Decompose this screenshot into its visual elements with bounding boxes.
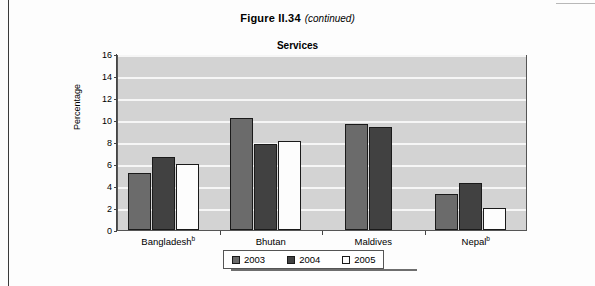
y-axis-tick-label: 8 (92, 139, 112, 148)
figure-continued-note: (continued) (305, 13, 355, 24)
gridline (118, 143, 526, 145)
legend-label: 2004 (299, 254, 320, 265)
y-axis-tick-mark (114, 143, 117, 144)
x-axis-tick-mark (322, 231, 323, 235)
legend-item-2005[interactable]: 2005 (342, 254, 375, 265)
y-axis-tick-mark (114, 55, 117, 56)
y-axis-tick-mark (114, 121, 117, 122)
gridline (118, 55, 526, 57)
y-axis-tick-label: 10 (92, 117, 112, 126)
legend-swatch-icon (342, 256, 350, 264)
x-axis-category-label: Maldives (322, 236, 425, 247)
x-axis-category-label: Bhutan (220, 236, 323, 247)
legend-item-2003[interactable]: 2003 (232, 254, 265, 265)
bar-nepal-2005 (483, 208, 506, 230)
y-axis-tick-label: 6 (92, 161, 112, 170)
figure-number: Figure II.34 (240, 12, 300, 24)
y-axis-tick-mark (114, 187, 117, 188)
bar-bhutan-2005 (278, 141, 301, 230)
x-axis-category-label: Nepalb (425, 236, 528, 247)
y-axis-tick-mark (114, 209, 117, 210)
bar-bangladesh-2003 (128, 173, 151, 230)
bottom-rule (231, 269, 417, 271)
y-axis-tick-mark (114, 231, 117, 232)
bar-nepal-2004 (459, 183, 482, 230)
y-axis-tick-label: 0 (92, 227, 112, 236)
x-axis-tick-mark (425, 231, 426, 235)
bar-nepal-2003 (435, 194, 458, 230)
plot-area (117, 55, 527, 231)
y-axis-tick-label: 4 (92, 183, 112, 192)
y-axis-tick-mark (114, 77, 117, 78)
bar-bangladesh-2004 (152, 157, 175, 230)
legend-label: 2005 (354, 254, 375, 265)
plot-wrapper: 0246810121416 BangladeshbBhutanMaldivesN… (117, 55, 527, 231)
y-axis-title-label: Percentage (72, 62, 82, 152)
chart-legend: 200320042005 (223, 250, 384, 269)
bar-bangladesh-2005 (176, 164, 199, 230)
y-axis-tick-label: 14 (92, 73, 112, 82)
figure-page: Figure II.34(continued) Services Percent… (0, 0, 595, 286)
legend-swatch-icon (232, 256, 240, 264)
gridline (118, 121, 526, 123)
bar-bhutan-2003 (230, 118, 253, 230)
page-top-right-rule (556, 3, 595, 4)
y-axis-title: Percentage (72, 100, 82, 114)
x-axis-category-label: Bangladeshb (117, 236, 220, 247)
y-axis-tick-label: 2 (92, 205, 112, 214)
bar-maldives-2004 (369, 127, 392, 230)
bar-bhutan-2004 (254, 144, 277, 230)
legend-item-2004[interactable]: 2004 (287, 254, 320, 265)
footnote-marker: b (486, 235, 490, 242)
bar-maldives-2003 (345, 124, 368, 230)
footnote-marker: b (192, 235, 196, 242)
figure-title: Figure II.34(continued) (0, 12, 595, 25)
gridline (118, 99, 526, 101)
gridline (118, 77, 526, 79)
x-axis-tick-mark (220, 231, 221, 235)
chart-title: Services (0, 40, 595, 52)
y-axis-tick-label: 16 (92, 51, 112, 60)
y-axis-tick-mark (114, 165, 117, 166)
y-axis-tick-mark (114, 99, 117, 100)
legend-swatch-icon (287, 256, 295, 264)
y-axis-tick-label: 12 (92, 95, 112, 104)
legend-label: 2003 (244, 254, 265, 265)
